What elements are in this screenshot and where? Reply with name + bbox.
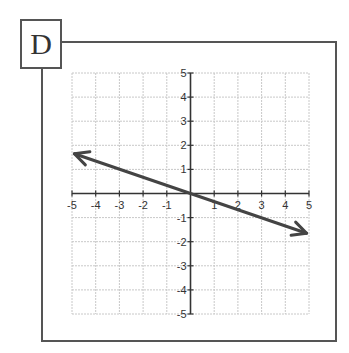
svg-text:1: 1 bbox=[180, 163, 186, 175]
svg-text:-1: -1 bbox=[162, 199, 172, 211]
svg-text:-3: -3 bbox=[177, 260, 187, 272]
svg-text:-4: -4 bbox=[177, 284, 187, 296]
svg-text:-5: -5 bbox=[177, 308, 187, 320]
svg-text:-3: -3 bbox=[115, 199, 125, 211]
svg-text:5: 5 bbox=[180, 67, 186, 79]
svg-text:-2: -2 bbox=[138, 199, 148, 211]
svg-text:3: 3 bbox=[259, 199, 265, 211]
svg-text:4: 4 bbox=[282, 199, 288, 211]
panel-label: D bbox=[20, 19, 62, 69]
svg-text:5: 5 bbox=[306, 199, 312, 211]
svg-text:-2: -2 bbox=[177, 236, 187, 248]
svg-text:2: 2 bbox=[180, 139, 186, 151]
svg-text:-1: -1 bbox=[177, 212, 187, 224]
svg-text:-5: -5 bbox=[67, 199, 77, 211]
svg-text:3: 3 bbox=[180, 115, 186, 127]
svg-text:4: 4 bbox=[180, 91, 186, 103]
svg-text:-4: -4 bbox=[91, 199, 101, 211]
